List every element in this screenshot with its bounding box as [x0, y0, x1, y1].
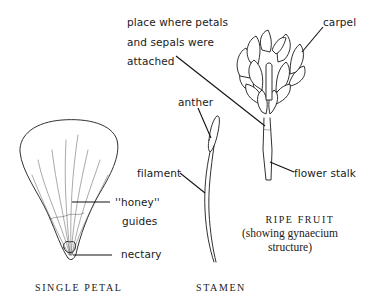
- ripe-fruit-subcaption-line2: structure): [236, 242, 344, 254]
- honey-guides-label-line2: guides: [122, 216, 157, 227]
- anther-leader: [198, 108, 211, 138]
- attachment-label-line2: and sepals were: [127, 37, 214, 48]
- nectary-label: nectary: [121, 249, 162, 260]
- flower-stalk-leader: [270, 162, 294, 172]
- ripe-fruit-subcaption-line1: (showing gynaecium: [236, 228, 344, 240]
- single-petal-caption: SINGLE PETAL: [35, 283, 123, 293]
- ripe-fruit-drawing: [237, 30, 305, 180]
- honey-guides-label-line1: ''honey'': [115, 197, 160, 208]
- filament-label: filament: [137, 168, 181, 179]
- anther-label: anther: [178, 97, 213, 108]
- attachment-label-line1: place where petals: [127, 17, 228, 28]
- filament-leader: [180, 173, 205, 193]
- flower-stalk-label: flower stalk: [294, 168, 356, 179]
- attachment-label-line3: attached: [127, 56, 174, 67]
- ripe-fruit-caption: RIPE FRUIT: [255, 215, 345, 225]
- stamen-caption: STAMEN: [196, 283, 246, 293]
- stamen-drawing: [205, 116, 220, 262]
- single-petal-drawing: [20, 120, 118, 260]
- carpel-leader: [302, 27, 323, 52]
- carpel-label: carpel: [323, 17, 356, 28]
